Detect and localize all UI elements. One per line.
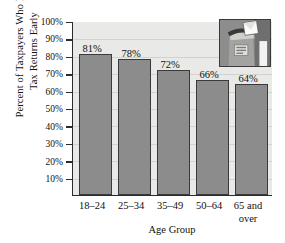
y-tick-label-60: 60% <box>23 88 63 98</box>
y-tick-label-90: 90% <box>23 35 63 45</box>
bar-25-34[interactable] <box>118 59 151 195</box>
x-axis-title: Age Group <box>72 224 272 235</box>
bar-18-24[interactable] <box>79 54 112 195</box>
bar-50-64[interactable] <box>196 80 229 195</box>
y-tick-label-50: 50% <box>23 105 63 115</box>
x-tick-label-65-and-over: 65 and over <box>214 200 282 225</box>
y-tick-label-80: 80% <box>23 53 63 63</box>
mailbox-icon <box>220 20 270 66</box>
mailbox-photo-inset <box>219 19 271 67</box>
y-tick-label-70: 70% <box>23 70 63 80</box>
bar-chart-figure: Percent of Taxpayers Who File Tax Return… <box>0 0 285 243</box>
y-tick-label-10: 10% <box>23 175 63 185</box>
y-tick-label-40: 40% <box>23 123 63 133</box>
y-tick-label-100: 100% <box>23 18 63 28</box>
y-tick-label-20: 20% <box>23 158 63 168</box>
bar-35-49[interactable] <box>157 70 190 195</box>
x-tick-label-65-and-over-line-1: 65 and <box>234 200 262 211</box>
bar-value-label-65-and-over: 64% <box>218 73 278 84</box>
y-tick-label-30: 30% <box>23 140 63 150</box>
x-tick-label-65-and-over-line-2: over <box>239 213 258 224</box>
bar-65-and-over[interactable] <box>235 84 268 195</box>
bar-value-label-25-34: 78% <box>101 48 161 59</box>
